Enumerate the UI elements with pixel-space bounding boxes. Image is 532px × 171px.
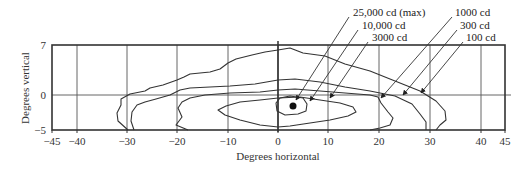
legend-label: 300 cd: [460, 19, 490, 31]
legend-callouts: 25,000 cd (max)10,000 cd3000 cd1000 cd30…: [296, 6, 496, 101]
y-tick-labels: 70−5: [34, 39, 46, 136]
contour-3000cd: [218, 97, 356, 127]
x-tick-label: 10: [323, 135, 335, 147]
legend-label: 10,000 cd: [362, 19, 406, 31]
max-intensity-dot: [290, 103, 297, 110]
x-tick-label: −45: [43, 135, 61, 147]
legend-label: 1000 cd: [455, 6, 491, 18]
legend-leader-line: [296, 17, 349, 100]
isocandela-chart: 25,000 cd (max)10,000 cd3000 cd1000 cd30…: [0, 0, 532, 171]
y-tick-label: 7: [41, 39, 47, 51]
x-tick-label: 30: [425, 135, 437, 147]
x-tick-label: 45: [500, 135, 512, 147]
x-tick-label: 0: [275, 135, 281, 147]
legend-leader-line: [421, 42, 463, 93]
x-tick-label: 20: [374, 135, 386, 147]
x-tick-label: −40: [68, 135, 86, 147]
x-axis-label: Degrees horizontal: [236, 150, 319, 162]
y-tick-label: −5: [34, 124, 46, 136]
legend-label: 3000 cd: [372, 31, 408, 43]
legend-label: 25,000 cd (max): [353, 6, 426, 19]
contour-lines: [117, 48, 446, 130]
x-tick-label: −30: [118, 135, 136, 147]
y-axis-label: Degrees vertical: [19, 52, 31, 124]
y-tick-label: 0: [41, 89, 47, 101]
x-tick-label: 40: [476, 135, 488, 147]
legend-label: 100 cd: [466, 31, 496, 43]
x-tick-labels: −45−40−30−20−1001020304045: [43, 130, 511, 147]
vertical-gridlines: [77, 45, 481, 130]
contour-100cd: [117, 48, 446, 130]
x-tick-label: −10: [219, 135, 237, 147]
x-tick-label: −20: [168, 135, 186, 147]
